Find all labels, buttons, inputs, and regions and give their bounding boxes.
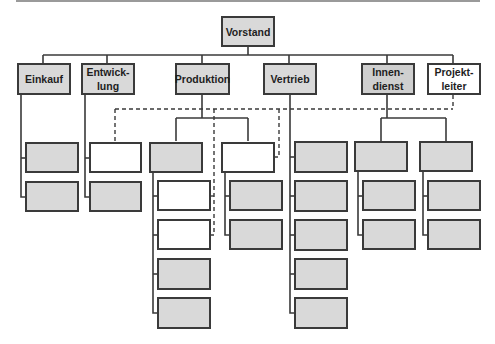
unit-entwicklung-1	[89, 142, 142, 173]
label-vorstand: Vorstand	[226, 25, 271, 39]
box-vertrieb: Vertrieb	[263, 63, 317, 95]
unit-innendienst-right-head	[419, 141, 473, 172]
box-vorstand: Vorstand	[221, 16, 275, 47]
unit-produktion-left-head	[149, 142, 203, 173]
label-vertrieb: Vertrieb	[270, 72, 309, 86]
label-entwicklung: Entwick- lung	[86, 65, 129, 93]
box-innendienst: Innen- dienst	[361, 63, 415, 95]
unit-produktion-right-2	[229, 219, 283, 250]
unit-innendienst-right-2	[427, 219, 481, 250]
unit-vertrieb-2	[294, 180, 348, 212]
unit-produktion-left-4	[157, 297, 211, 329]
unit-vertrieb-4	[294, 258, 348, 290]
box-entwicklung: Entwick- lung	[81, 63, 135, 95]
label-innendienst: Innen- dienst	[372, 65, 404, 93]
unit-vertrieb-5	[294, 297, 348, 329]
unit-einkauf-2	[25, 181, 79, 212]
unit-produktion-left-3	[157, 258, 211, 290]
unit-produktion-left-2	[157, 219, 211, 250]
unit-produktion-right-1	[229, 180, 283, 211]
unit-vertrieb-1	[294, 141, 348, 173]
unit-produktion-left-1	[157, 180, 211, 211]
unit-entwicklung-2	[89, 181, 142, 212]
unit-produktion-right-head	[221, 142, 275, 173]
unit-innendienst-right-1	[427, 180, 481, 211]
box-einkauf: Einkauf	[17, 63, 71, 95]
box-projektleiter: Projekt- leiter	[427, 63, 481, 95]
unit-vertrieb-3	[294, 219, 348, 251]
unit-innendienst-left-head	[354, 141, 408, 172]
unit-innendienst-left-1	[362, 180, 416, 211]
box-produktion: Produktion	[175, 63, 230, 95]
label-produktion: Produktion	[175, 72, 230, 86]
unit-einkauf-1	[25, 142, 79, 173]
label-einkauf: Einkauf	[25, 72, 63, 86]
unit-innendienst-left-2	[362, 219, 416, 250]
label-projektleiter: Projekt- leiter	[434, 65, 473, 93]
